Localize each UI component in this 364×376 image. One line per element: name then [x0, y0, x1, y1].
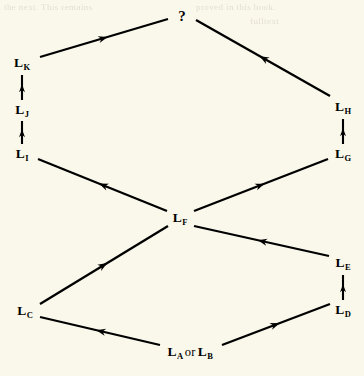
arrowhead-icon — [98, 180, 109, 190]
edge-LI-LJ — [19, 121, 25, 144]
node-lc: LC — [17, 304, 32, 318]
edge-LE-LF — [194, 226, 329, 256]
edge-LF-LG — [194, 159, 328, 211]
arrowhead-icon — [254, 180, 265, 190]
arrowhead-icon — [270, 320, 281, 330]
node-li: LI — [16, 147, 29, 161]
edges — [19, 19, 346, 345]
node-lf: LF — [173, 211, 187, 225]
edge-LG-LH — [340, 119, 346, 144]
node-lab: LAorLB — [167, 345, 212, 359]
edge-LF-LI — [38, 159, 167, 211]
hierarchy-diagram: the next. This remains proved in this bo… — [0, 0, 364, 376]
edge-LAB-LC — [40, 317, 160, 345]
node-ld: LD — [335, 303, 350, 317]
node-lk: LK — [14, 56, 30, 70]
edge-LH-unknown — [196, 20, 330, 96]
edge-LK-unknown — [40, 19, 168, 57]
node-lh: LH — [335, 100, 351, 114]
edge-LAB-LD — [222, 304, 330, 345]
arrowhead-icon — [97, 260, 109, 271]
node-lj: LJ — [15, 103, 28, 117]
edge-LJ-LK — [19, 75, 25, 100]
node-lg: LG — [335, 147, 351, 161]
node-le: LE — [336, 256, 351, 270]
node-unknown: ? — [178, 9, 186, 24]
edge-LC-LF — [40, 226, 168, 304]
edge-layer — [0, 0, 364, 376]
arrowhead-icon — [258, 53, 270, 64]
edge-LD-LE — [340, 275, 346, 300]
